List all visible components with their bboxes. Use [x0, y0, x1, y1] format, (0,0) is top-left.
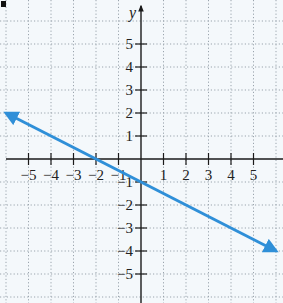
y-tick-label: 4 — [126, 59, 134, 75]
x-tick-label: 1 — [160, 167, 168, 183]
y-tick-label: 1 — [126, 128, 134, 144]
y-tick-label: 2 — [126, 105, 134, 121]
y-tick-label: 5 — [126, 36, 134, 52]
x-tick-label: 4 — [227, 167, 235, 183]
x-tick-label: 5 — [250, 167, 258, 183]
y-tick-label: −5 — [117, 266, 133, 282]
y-tick-label: −4 — [117, 243, 133, 259]
x-tick-label: 3 — [205, 167, 213, 183]
x-tick-label: −4 — [43, 167, 59, 183]
corner-mark — [1, 1, 6, 7]
x-tick-label: 2 — [182, 167, 190, 183]
x-tick-label: −3 — [66, 167, 82, 183]
coordinate-plane: y −5−4−3−2−112345−5−4−3−2−112345 — [0, 0, 283, 303]
y-axis-label: y — [127, 4, 137, 22]
x-tick-label: −5 — [21, 167, 37, 183]
y-tick-label: 3 — [126, 82, 134, 98]
y-tick-label: −3 — [117, 220, 133, 236]
x-tick-label: −2 — [88, 167, 104, 183]
y-tick-label: −2 — [117, 197, 133, 213]
